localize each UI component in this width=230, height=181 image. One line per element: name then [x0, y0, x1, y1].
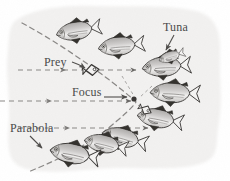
label-tuna: Tuna: [163, 21, 188, 33]
focus-point: [131, 96, 136, 101]
figure-canvas: [0, 0, 230, 181]
parabola-tuna-figure: Tuna Prey Focus Parabola: [0, 0, 230, 181]
label-parabola: Parabola: [10, 122, 54, 134]
label-focus: Focus: [72, 86, 102, 98]
label-prey: Prey: [44, 56, 67, 68]
